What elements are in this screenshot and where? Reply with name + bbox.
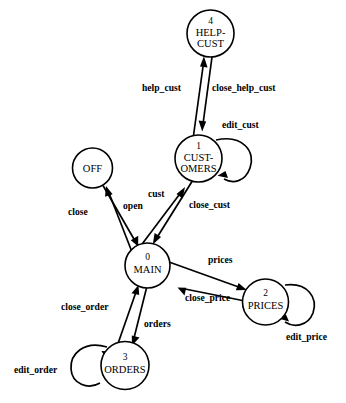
edge-label-edit-cust: edit_cust	[222, 119, 259, 130]
state-node-main[interactable]: 0 MAIN	[125, 243, 170, 288]
state-label-customers-line1: CUST-	[184, 152, 214, 163]
edge-close-order	[118, 285, 139, 344]
state-label-customers-line2: OMERS	[180, 163, 216, 174]
state-diagram-canvas: OFF 0 MAIN 1 CUST- OMERS 2 PRICES 3 ORDE…	[0, 0, 346, 403]
edge-label-close-help-cust: close_help_cust	[212, 82, 275, 93]
state-label-off: OFF	[83, 163, 102, 174]
edge-prices	[169, 262, 247, 290]
state-id-prices: 2	[263, 288, 268, 298]
edge-label-help-cust: help_cust	[142, 82, 181, 93]
state-label-prices: PRICES	[248, 300, 284, 311]
state-node-help-cust[interactable]: 4 HELP- CUST	[187, 10, 234, 57]
edge-label-close-order: close_order	[61, 301, 108, 312]
edge-label-edit-price: edit_price	[286, 331, 327, 342]
state-id-main: 0	[145, 252, 150, 262]
state-id-orders: 3	[123, 352, 128, 362]
state-node-prices[interactable]: 2 PRICES	[243, 279, 289, 325]
edge-label-cust: cust	[148, 188, 165, 199]
edge-close-help-cust	[199, 57, 212, 132]
edge-label-edit-order: edit_order	[14, 364, 57, 375]
state-id-help-cust: 4	[208, 16, 213, 26]
state-label-help-cust-line2: CUST	[197, 38, 224, 49]
state-node-customers[interactable]: 1 CUST- OMERS	[175, 135, 222, 182]
edge-label-close: close	[68, 206, 88, 217]
edge-label-open: open	[123, 200, 143, 211]
state-diagram-svg: OFF 0 MAIN 1 CUST- OMERS 2 PRICES 3 ORDE…	[0, 0, 346, 403]
state-label-main: MAIN	[134, 264, 162, 275]
edge-label-orders: orders	[144, 318, 171, 329]
state-node-orders[interactable]: 3 ORDERS	[101, 342, 149, 390]
state-label-help-cust-line1: HELP-	[196, 27, 226, 38]
edge-label-close-price: close_price	[185, 292, 230, 303]
edge-open	[103, 186, 138, 247]
state-id-customers: 1	[196, 141, 201, 151]
edge-label-prices: prices	[208, 254, 233, 265]
edge-label-close-cust: close_cust	[189, 199, 230, 210]
state-label-orders: ORDERS	[104, 364, 146, 375]
state-node-off[interactable]: OFF	[73, 148, 113, 188]
